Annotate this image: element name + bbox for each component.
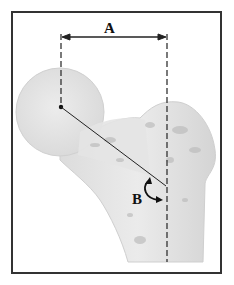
- label-a: A: [104, 21, 115, 36]
- label-b: B: [132, 192, 142, 207]
- femur-illustration: [0, 0, 234, 285]
